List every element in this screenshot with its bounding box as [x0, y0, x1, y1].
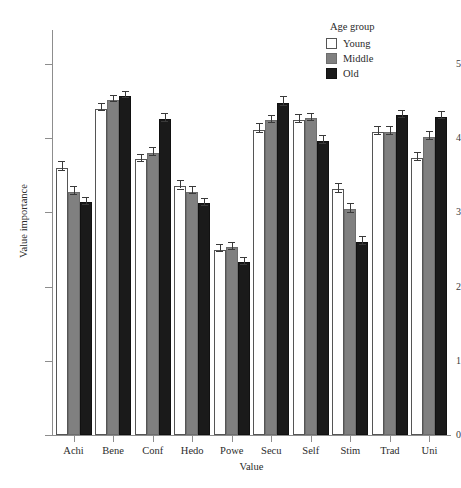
legend-item-young: Young	[326, 36, 436, 51]
error-bar-cap-upper	[58, 161, 65, 162]
error-bar	[74, 186, 75, 194]
bar-uni-middle	[423, 137, 435, 435]
error-bar-cap-lower	[359, 244, 366, 245]
error-bar	[259, 123, 260, 132]
bar-trad-old	[396, 115, 408, 435]
x-tick-mark	[232, 436, 233, 442]
x-tick-mark	[113, 436, 114, 442]
bar-bene-young	[95, 109, 107, 435]
bar-chart-figure: 012345 Value importance AchiBeneConfHedo…	[0, 0, 461, 488]
x-tick-mark	[390, 436, 391, 442]
bar-uni-young	[411, 158, 423, 435]
bar-achi-young	[56, 168, 68, 435]
error-bar-cap-lower	[319, 143, 326, 144]
x-tick-mark	[350, 436, 351, 442]
error-bar-cap-upper	[295, 114, 302, 115]
error-bar-cap-lower	[161, 121, 168, 122]
bar-powe-young	[214, 250, 226, 436]
error-bar-cap-lower	[122, 97, 129, 98]
legend-label: Old	[343, 68, 359, 80]
error-bar-cap-upper	[201, 198, 208, 199]
error-bar-cap-upper	[398, 110, 405, 111]
error-bar-cap-upper	[414, 152, 421, 153]
error-bar-cap-lower	[149, 155, 156, 156]
error-bar-cap-lower	[280, 105, 287, 106]
error-bar	[390, 126, 391, 134]
error-bar-cap-upper	[177, 180, 184, 181]
legend-swatch-middle	[326, 53, 337, 64]
x-axis-title: Value	[52, 461, 451, 473]
legend-label: Middle	[343, 53, 373, 65]
error-bar-cap-upper	[374, 126, 381, 127]
bar-stim-young	[332, 189, 344, 435]
bar-bene-old	[119, 96, 131, 435]
error-bar-cap-lower	[137, 161, 144, 162]
error-bar-cap-upper	[70, 186, 77, 187]
error-bar-cap-upper	[161, 113, 168, 114]
error-bar-cap-upper	[189, 186, 196, 187]
error-bar	[283, 96, 284, 105]
error-bar-cap-lower	[307, 120, 314, 121]
legend-title: Age group	[330, 20, 436, 33]
bar-conf-young	[135, 159, 147, 435]
error-bar-cap-upper	[268, 115, 275, 116]
error-bar-cap-upper	[98, 103, 105, 104]
x-tick-mark	[429, 436, 430, 442]
error-bar-cap-lower	[295, 122, 302, 123]
legend-entries: YoungMiddleOld	[326, 36, 436, 81]
legend-swatch-young	[326, 38, 337, 49]
x-tick-mark	[311, 436, 312, 442]
error-bar-cap-upper	[216, 244, 223, 245]
error-bar-cap-upper	[122, 91, 129, 92]
bar-bene-middle	[107, 100, 119, 435]
error-bar	[86, 197, 87, 204]
error-bar-cap-lower	[228, 249, 235, 250]
error-bar-cap-lower	[268, 122, 275, 123]
bar-self-old	[317, 141, 329, 435]
error-bar	[220, 244, 221, 251]
error-bar-cap-upper	[426, 131, 433, 132]
error-bar	[271, 115, 272, 122]
legend-label: Young	[343, 38, 371, 50]
bar-secu-old	[277, 103, 289, 435]
bar-self-middle	[305, 118, 317, 435]
error-bar-cap-upper	[256, 123, 263, 124]
x-tick-mark	[74, 436, 75, 442]
error-bar	[311, 113, 312, 120]
error-bar	[429, 131, 430, 139]
error-bar-cap-upper	[335, 183, 342, 184]
error-bar-cap-lower	[216, 251, 223, 252]
x-tick-mark	[271, 436, 272, 442]
bar-uni-old	[435, 117, 447, 435]
error-bar	[299, 114, 300, 122]
error-bar-cap-upper	[110, 95, 117, 96]
bar-secu-middle	[265, 120, 277, 435]
bar-conf-middle	[147, 153, 159, 435]
bar-powe-old	[238, 262, 250, 435]
error-bar-cap-lower	[110, 101, 117, 102]
error-bar	[153, 147, 154, 155]
error-bar-cap-lower	[201, 205, 208, 206]
bar-hedo-young	[174, 186, 186, 435]
error-bar	[402, 110, 403, 117]
error-bar-cap-upper	[386, 126, 393, 127]
error-bar	[338, 183, 339, 192]
bar-stim-middle	[344, 209, 356, 435]
error-bar-cap-upper	[438, 111, 445, 112]
error-bar-cap-lower	[240, 264, 247, 265]
error-bar-cap-upper	[149, 147, 156, 148]
error-bar-cap-upper	[319, 135, 326, 136]
error-bar-cap-upper	[359, 236, 366, 237]
error-bar-cap-upper	[228, 242, 235, 243]
error-bar-cap-upper	[137, 154, 144, 155]
legend-item-middle: Middle	[326, 51, 436, 66]
error-bar-cap-lower	[177, 189, 184, 190]
error-bar	[232, 242, 233, 249]
x-axis-line	[52, 435, 451, 436]
error-bar-cap-lower	[426, 139, 433, 140]
bar-conf-old	[159, 119, 171, 435]
error-bar-cap-lower	[398, 117, 405, 118]
error-bar	[417, 152, 418, 160]
legend: Age group YoungMiddleOld	[326, 20, 436, 81]
bar-secu-young	[253, 130, 265, 435]
